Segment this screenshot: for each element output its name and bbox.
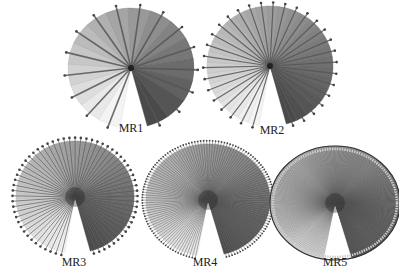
spoke-dot	[248, 152, 250, 154]
spoke-dot	[265, 171, 267, 173]
spoke-dot	[194, 141, 196, 143]
spoke-dot	[163, 243, 165, 245]
spoke-dot	[26, 234, 29, 237]
spoke-dot	[28, 155, 31, 158]
spoke-dot	[188, 142, 190, 144]
spoke-dot	[91, 139, 94, 142]
spoke-dot	[129, 169, 132, 172]
spoke-dot	[124, 230, 127, 233]
spoke-dot	[46, 142, 49, 145]
spoke-dot	[254, 158, 256, 160]
spoke-dot	[145, 181, 147, 183]
spoke-dot	[175, 251, 177, 253]
spoke-dot	[206, 140, 208, 142]
spoke-dot	[237, 9, 240, 12]
spoke-dot	[153, 232, 155, 234]
spoke-dot	[266, 173, 268, 175]
spoke-dot	[242, 249, 244, 251]
spoke-dot	[244, 248, 246, 250]
spoke-dot	[151, 168, 153, 170]
spoke-dot	[256, 160, 258, 162]
spoke-dot	[323, 28, 326, 31]
spoke-dot	[93, 252, 96, 255]
spoke-dot	[303, 119, 306, 122]
spoke-dot	[141, 202, 143, 204]
spoke-dot	[292, 124, 295, 127]
hub	[128, 65, 134, 71]
spoke-dot	[332, 84, 335, 87]
spoke-dot	[115, 5, 118, 8]
spoke-dot	[149, 171, 151, 173]
spoke-dot	[11, 195, 14, 198]
spoke-dot	[135, 206, 138, 209]
spoke-dot	[11, 200, 14, 203]
spoke-dot	[180, 145, 182, 147]
panel-mr5: MR5	[270, 146, 399, 269]
mr5-label: MR5	[323, 255, 348, 269]
spoke-dot	[160, 241, 162, 243]
mr4-wedges	[141, 140, 274, 259]
spoke-dot	[218, 141, 220, 143]
spoke-dot	[328, 94, 331, 97]
spoke-dot	[263, 169, 265, 171]
spoke-dot	[264, 228, 266, 230]
mr1-label: MR1	[119, 121, 144, 135]
spoke-dot	[116, 152, 119, 155]
panel-mr1: MR1	[63, 4, 199, 135]
spoke-dot	[146, 220, 148, 222]
spoke-dot	[203, 78, 206, 81]
spoke-dot	[55, 252, 58, 255]
spoke-dot	[150, 228, 152, 230]
spoke-dot	[151, 230, 153, 232]
spoke-dot	[24, 159, 27, 162]
panel-mr2: MR2	[202, 1, 338, 137]
spoke-dot	[335, 72, 338, 75]
spoke-dot	[180, 253, 182, 255]
spoke-dot	[240, 122, 243, 125]
spoke-dot	[147, 176, 149, 178]
spoke-dot	[41, 145, 44, 148]
spoke-dot	[156, 162, 158, 164]
spoke-dot	[75, 30, 78, 33]
spoke-dot	[85, 137, 88, 140]
spoke-dot	[167, 152, 169, 154]
spoke-dot	[134, 211, 137, 214]
spoke-dot	[185, 143, 187, 145]
spoke-dot	[21, 164, 24, 167]
spoke-dot	[106, 145, 109, 148]
spoke-dot	[143, 186, 145, 188]
spoke-dot	[266, 226, 268, 228]
spoke-dot	[96, 140, 99, 143]
spoke-dot	[162, 156, 164, 158]
spoke-dot	[243, 149, 245, 151]
spoke-dot	[128, 226, 131, 229]
spoke-dot	[181, 26, 184, 29]
spoke-dot	[212, 140, 214, 142]
spoke-dot	[162, 11, 165, 14]
spoke-dot	[313, 113, 316, 116]
spoke-dot	[329, 38, 332, 41]
spoke-dot	[203, 55, 206, 58]
spoke-dot	[132, 216, 135, 219]
spoke-dot	[98, 250, 101, 253]
spoke-dot	[158, 239, 160, 241]
spoke-dot	[35, 242, 38, 245]
spoke-dot	[136, 200, 139, 203]
mr3-wedges	[11, 136, 139, 256]
spoke-dot	[169, 151, 171, 153]
spoke-dot	[136, 189, 139, 192]
spoke-dot	[234, 253, 236, 255]
spoke-dot	[120, 155, 123, 158]
spoke-dot	[235, 145, 237, 147]
spoke-dot	[226, 142, 228, 144]
mr1-wedges	[63, 4, 199, 129]
spoke-dot	[127, 164, 130, 167]
spoke-dot	[172, 249, 174, 251]
spoke-dot	[20, 226, 23, 229]
spoke-dot	[68, 137, 71, 140]
spoke-dot	[228, 255, 230, 257]
spoke-dot	[191, 142, 193, 144]
mr2-label: MR2	[260, 123, 285, 137]
spoke-dot	[134, 179, 137, 182]
spoke-dot	[71, 96, 74, 99]
